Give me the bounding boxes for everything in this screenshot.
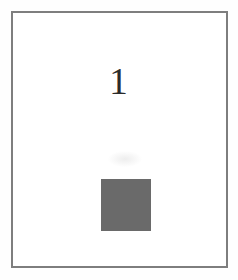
figure-number-label: 1 — [13, 63, 226, 100]
figure-frame-border: 1 — [11, 11, 228, 268]
gray-square-swatch — [101, 179, 151, 231]
figure-page: 1 — [0, 0, 238, 280]
scan-smudge-artifact — [108, 151, 142, 167]
